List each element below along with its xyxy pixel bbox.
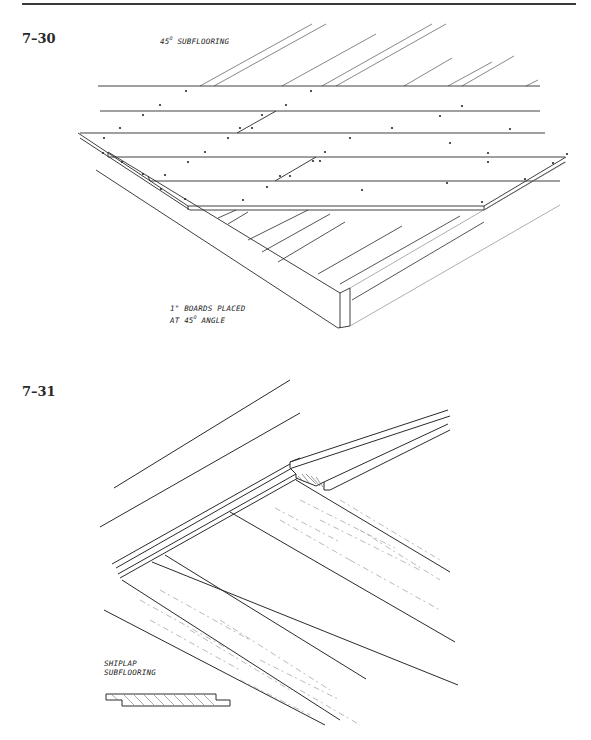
shiplap-subflooring-drawing	[100, 380, 570, 725]
technical-drawings	[0, 0, 591, 740]
shiplap-profile-detail	[106, 694, 230, 706]
diagonal-subflooring-drawing	[78, 24, 568, 328]
